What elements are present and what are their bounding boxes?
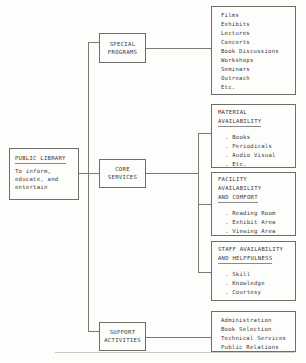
material-heading-1: MATERIAL: [218, 109, 247, 116]
support-item-1: Book Selection: [221, 326, 272, 333]
node-material-availability[interactable]: MATERIAL AVAILABILITY . Books . Periodic…: [211, 104, 296, 168]
node-public-library-heading: PUBLIC LIBRARY: [15, 155, 66, 164]
programs-item-2: Lectures: [221, 30, 250, 37]
facility-heading-2: AVAILABILITY: [218, 185, 261, 192]
connector-bus-staff: [198, 272, 211, 273]
support-item-3: Public Relations: [221, 344, 279, 351]
connector-core-stub: [146, 173, 198, 174]
node-core-services-label-2: SERVICES: [100, 174, 145, 182]
material-item-1: . Periodicals: [225, 143, 272, 150]
node-public-library-line-3: entertain: [15, 184, 48, 191]
node-public-library-line-2: educate, and: [15, 176, 58, 183]
facility-item-2: . Viewing Area: [225, 228, 276, 235]
programs-item-8: Etc.: [221, 84, 235, 91]
programs-item-6: Seminars: [221, 66, 250, 73]
support-item-0: Administration: [221, 317, 272, 324]
material-item-3: . Etc.: [225, 161, 247, 168]
connector-bus-facility: [198, 204, 211, 205]
programs-item-4: Book Discussions: [221, 48, 279, 55]
facility-heading-1: FACILITY: [218, 176, 247, 183]
facility-heading-3: AND COMFORT: [218, 194, 258, 203]
node-special-programs-label-2: PROGRAMS: [100, 49, 145, 57]
node-support-activities[interactable]: SUPPORT ACTIVITIES: [99, 322, 146, 351]
connector-trunk-support: [88, 331, 99, 332]
connector-core-bus: [198, 133, 199, 273]
material-item-0: . Books: [225, 134, 250, 141]
node-core-services[interactable]: CORE SERVICES: [99, 159, 146, 188]
node-special-programs-label-1: SPECIAL: [100, 41, 145, 49]
node-staff-availability[interactable]: STAFF AVAILABILITY AND HELPFULNESS . Ski…: [211, 241, 296, 301]
node-support-activities-label-1: SUPPORT: [100, 329, 145, 337]
node-public-library-line-1: To inform,: [15, 168, 51, 175]
staff-item-0: . Skill: [225, 271, 250, 278]
programs-item-3: Concerts: [221, 39, 250, 46]
support-item-2: Technical Services: [221, 335, 286, 342]
node-facility-availability[interactable]: FACILITY AVAILABILITY AND COMFORT . Read…: [211, 172, 296, 236]
connector-support-list: [146, 337, 211, 338]
programs-item-0: Films: [221, 12, 239, 19]
connector-trunk-special: [88, 42, 99, 43]
facility-item-1: . Exhibit Area: [225, 219, 276, 226]
node-special-programs[interactable]: SPECIAL PROGRAMS: [99, 33, 146, 63]
facility-item-0: . Reading Room: [225, 210, 276, 217]
material-heading-2: AVAILABILITY: [218, 118, 261, 127]
node-public-library[interactable]: PUBLIC LIBRARY To inform, educate, and e…: [9, 148, 79, 200]
connector-main-trunk: [88, 42, 89, 331]
node-core-services-label-1: CORE: [100, 166, 145, 174]
node-support-list[interactable]: Administration Book Selection Technical …: [211, 311, 296, 352]
staff-item-2: . Courtesy: [225, 289, 261, 296]
staff-heading-2: AND HELPFULNESS: [218, 255, 272, 264]
node-programs-list[interactable]: Films Exhibits Lectures Concerts Book Di…: [211, 6, 296, 95]
library-services-diagram: PUBLIC LIBRARY To inform, educate, and e…: [0, 0, 306, 363]
bottom-rule: [55, 352, 295, 353]
programs-item-5: Workshops: [221, 57, 254, 64]
programs-item-1: Exhibits: [221, 21, 250, 28]
connector-trunk-core: [88, 173, 99, 174]
staff-heading-1: STAFF AVAILABILITY: [218, 246, 283, 253]
connector-bus-material: [198, 133, 211, 134]
node-support-activities-label-2: ACTIVITIES: [100, 337, 145, 345]
programs-item-7: Outreach: [221, 75, 250, 82]
staff-item-1: . Knowledge: [225, 280, 265, 287]
connector-special-list: [146, 48, 211, 49]
material-item-2: . Audio Visual: [225, 152, 276, 159]
